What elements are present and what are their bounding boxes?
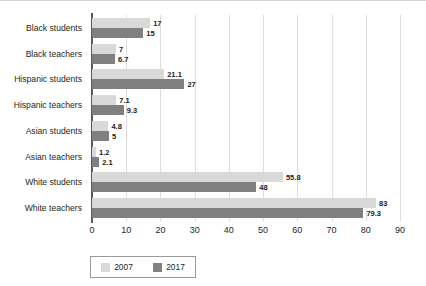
- x-tick-label: 90: [395, 225, 405, 235]
- bar-track: 6.7: [92, 54, 400, 64]
- category-label: White teachers: [25, 203, 82, 213]
- bar-2007: [92, 69, 164, 79]
- bar-track: 48: [92, 182, 400, 192]
- bar-value-label: 48: [256, 183, 267, 192]
- bar-group: 8379.3: [92, 198, 400, 218]
- legend-item-2017: 2017: [153, 262, 185, 272]
- bar-group: 55.848: [92, 172, 400, 192]
- x-tick-label: 50: [258, 225, 268, 235]
- bar-track: 79.3: [92, 208, 400, 218]
- bar-value-label: 83: [376, 199, 387, 208]
- bar-2007: [92, 95, 116, 105]
- bar-value-label: 7.1: [116, 96, 129, 105]
- chart-legend: 2007 2017: [90, 256, 196, 278]
- category-label: Hispanic students: [14, 74, 82, 84]
- bar-group: 1.22.1: [92, 147, 400, 167]
- bar-group: 4.85: [92, 121, 400, 141]
- x-tick-label: 20: [155, 225, 165, 235]
- bar-group: 21.127: [92, 69, 400, 89]
- bar-value-label: 27: [184, 80, 195, 89]
- x-tick-label: 10: [121, 225, 131, 235]
- bar-2017: [92, 131, 109, 141]
- bar-value-label: 6.7: [115, 54, 128, 63]
- category-axis-labels: Black studentsBlack teachersHispanic stu…: [0, 15, 88, 221]
- bar-2017: [92, 54, 115, 64]
- bar-value-label: 2.1: [99, 157, 112, 166]
- category-label: White students: [25, 177, 82, 187]
- bar-2007: [92, 44, 116, 54]
- bar-track: 55.8: [92, 172, 400, 182]
- bar-2017: [92, 79, 184, 89]
- bar-2017: [92, 157, 99, 167]
- bar-value-label: 79.3: [363, 209, 381, 218]
- gridline: [400, 15, 401, 221]
- x-axis-tick-labels: 0102030405060708090: [92, 225, 400, 239]
- bar-2007: [92, 18, 150, 28]
- bar-track: 1.2: [92, 147, 400, 157]
- bar-track: 15: [92, 28, 400, 38]
- bar-rows: 171576.721.1277.19.34.851.22.155.8488379…: [92, 15, 400, 221]
- bar-group: 1715: [92, 18, 400, 38]
- bar-track: 83: [92, 198, 400, 208]
- bar-2017: [92, 105, 124, 115]
- bar-track: 4.8: [92, 121, 400, 131]
- bar-track: 9.3: [92, 105, 400, 115]
- bar-value-label: 55.8: [283, 173, 301, 182]
- bar-track: 2.1: [92, 157, 400, 167]
- bar-chart: 171576.721.1277.19.34.851.22.155.8488379…: [0, 1, 426, 286]
- bar-track: 7: [92, 44, 400, 54]
- bar-value-label: 5: [109, 131, 116, 140]
- bar-value-label: 4.8: [108, 121, 121, 130]
- bar-value-label: 17: [150, 18, 161, 27]
- x-tick-label: 60: [292, 225, 302, 235]
- plot-area: 171576.721.1277.19.34.851.22.155.8488379…: [92, 15, 400, 221]
- category-label: Black students: [26, 23, 82, 33]
- bar-value-label: 21.1: [164, 70, 182, 79]
- legend-label-2007: 2007: [114, 262, 133, 272]
- legend-label-2017: 2017: [166, 262, 185, 272]
- bar-2017: [92, 28, 143, 38]
- bar-value-label: 15: [143, 28, 154, 37]
- bar-track: 7.1: [92, 95, 400, 105]
- x-tick-label: 80: [361, 225, 371, 235]
- category-label: Asian students: [26, 126, 82, 136]
- bar-2007: [92, 121, 108, 131]
- bar-2017: [92, 208, 363, 218]
- bar-group: 76.7: [92, 44, 400, 64]
- bar-track: 27: [92, 79, 400, 89]
- bar-track: 21.1: [92, 69, 400, 79]
- legend-item-2007: 2007: [101, 262, 133, 272]
- category-label: Black teachers: [26, 49, 82, 59]
- bar-group: 7.19.3: [92, 95, 400, 115]
- bar-value-label: 9.3: [124, 106, 137, 115]
- x-tick-label: 0: [89, 225, 94, 235]
- bar-track: 17: [92, 18, 400, 28]
- x-tick-label: 40: [224, 225, 234, 235]
- x-tick-label: 70: [327, 225, 337, 235]
- legend-swatch-2017-icon: [153, 263, 162, 272]
- x-tick-label: 30: [190, 225, 200, 235]
- bar-track: 5: [92, 131, 400, 141]
- bar-2007: [92, 172, 283, 182]
- category-label: Asian teachers: [25, 152, 82, 162]
- bar-value-label: 7: [116, 44, 123, 53]
- bar-2007: [92, 198, 376, 208]
- bar-value-label: 1.2: [96, 147, 109, 156]
- category-label: Hispanic teachers: [14, 100, 82, 110]
- legend-swatch-2007-icon: [101, 263, 110, 272]
- bar-2017: [92, 182, 256, 192]
